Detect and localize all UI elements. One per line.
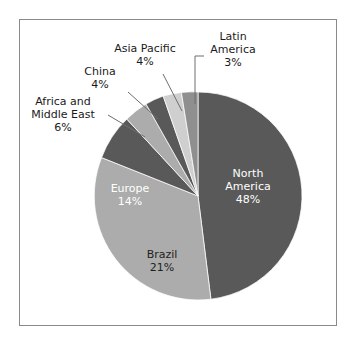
label-north-america-line2: America (225, 180, 270, 193)
label-china-pct: 4% (91, 78, 108, 91)
label-europe-pct: 14% (118, 195, 142, 208)
label-africa-and-middle-east-pct: 6% (54, 121, 71, 134)
label-latin-america-line1: Latin (219, 30, 246, 43)
slice-label-brazil: Brazil 21% (147, 248, 178, 274)
label-latin-america-line2: America (210, 43, 255, 56)
label-africa-and-middle-east-line2: Middle East (31, 108, 95, 121)
slice-label-china: China 4% (84, 65, 115, 91)
label-europe-line1: Europe (111, 182, 150, 195)
label-brazil-line1: Brazil (147, 248, 178, 261)
label-north-america-line1: North (233, 167, 264, 180)
label-latin-america-pct: 3% (224, 56, 241, 69)
label-north-america-pct: 48% (236, 193, 260, 206)
label-asia-pacific-line1: Asia Pacific (114, 42, 176, 55)
slice-label-africa-and-middle-east: Africa and Middle East 6% (31, 95, 95, 134)
label-asia-pacific-pct: 4% (136, 55, 153, 68)
label-africa-and-middle-east-line1: Africa and (35, 95, 91, 108)
slice-label-asia-pacific: Asia Pacific 4% (114, 42, 176, 68)
pie-chart: North America 48% Brazil 21% Europe 14% … (0, 0, 356, 346)
label-china-line1: China (84, 65, 115, 78)
slice-label-latin-america: Latin America 3% (210, 30, 255, 69)
label-brazil-pct: 21% (150, 261, 174, 274)
